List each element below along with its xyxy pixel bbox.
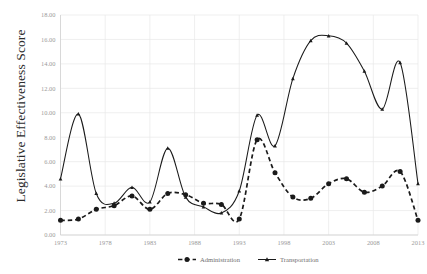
data-point-marker	[290, 195, 295, 200]
legend-item-administration[interactable]: Administration	[178, 256, 241, 263]
x-axis-tick-label: 1973	[54, 239, 67, 246]
y-axis-tick-label: 8.00	[44, 134, 55, 141]
x-axis-tick-labels: 197319781983198819931998200320082013	[54, 239, 424, 246]
data-point-marker	[362, 190, 367, 195]
data-point-marker	[416, 218, 421, 223]
chart-container: Legislative Effectiveness Score 0.002.00…	[0, 0, 427, 274]
legend-label: Transportation	[280, 256, 319, 263]
data-point-marker	[166, 146, 170, 150]
x-axis-tick-label: 2003	[322, 239, 335, 246]
data-point-marker	[326, 181, 331, 186]
data-point-marker	[273, 170, 278, 175]
y-axis-tick-labels: 0.002.004.006.008.0010.0012.0014.0016.00…	[41, 11, 55, 238]
y-axis-tick-label: 10.00	[41, 109, 55, 116]
y-axis-tick-label: 16.00	[41, 36, 55, 43]
y-axis-tick-label: 12.00	[41, 85, 55, 92]
data-point-marker	[308, 196, 313, 201]
data-point-marker	[76, 217, 81, 222]
x-axis-tick-label: 1983	[143, 239, 156, 246]
x-axis-tick-label: 1978	[99, 239, 112, 246]
x-axis-tick-label: 2013	[412, 239, 425, 246]
data-point-marker	[130, 193, 135, 198]
data-point-marker	[398, 169, 403, 174]
data-point-marker	[59, 177, 63, 181]
x-axis-tick-label: 2008	[367, 239, 380, 246]
y-axis-tick-label: 6.00	[44, 158, 55, 165]
data-point-marker	[94, 192, 98, 196]
y-axis-tick-label: 2.00	[44, 207, 55, 214]
data-point-marker	[201, 201, 206, 206]
data-point-marker	[165, 191, 170, 196]
data-point-marker	[237, 217, 242, 222]
x-axis-tick-label: 1988	[188, 239, 201, 246]
data-point-marker	[58, 218, 63, 223]
x-axis-tick-label: 1998	[278, 239, 291, 246]
data-point-marker	[255, 137, 260, 142]
data-point-marker	[219, 202, 224, 207]
legend-item-transportation[interactable]: Transportation	[258, 256, 319, 263]
data-point-marker	[380, 184, 385, 189]
legend-label: Administration	[200, 256, 241, 263]
y-axis-tick-label: 0.00	[44, 231, 55, 238]
data-point-marker	[344, 176, 349, 181]
data-point-marker	[416, 182, 420, 186]
data-point-marker	[237, 189, 241, 193]
y-axis-tick-label: 18.00	[41, 11, 55, 18]
data-point-marker	[94, 207, 99, 212]
data-point-marker	[291, 77, 295, 81]
chart-legend: AdministrationTransportation	[178, 256, 319, 263]
data-point-marker	[147, 207, 152, 212]
y-axis-tick-label: 14.00	[41, 60, 55, 67]
legend-swatch-marker	[185, 257, 190, 262]
x-axis-tick-label: 1993	[233, 239, 246, 246]
y-axis-tick-label: 4.00	[44, 182, 55, 189]
chart-plot: 0.002.004.006.008.0010.0012.0014.0016.00…	[0, 0, 427, 274]
